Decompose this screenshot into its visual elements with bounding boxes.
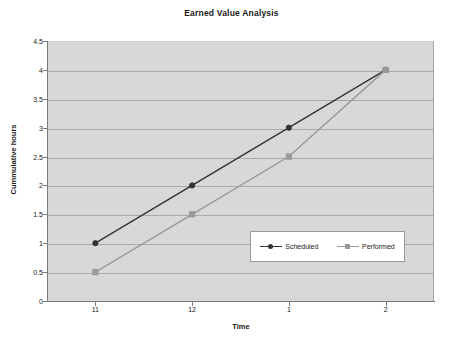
x-axis-tick-label: 11 [75, 306, 115, 313]
gridline [47, 129, 433, 130]
y-axis-tick-label: 4 [3, 66, 43, 73]
x-axis-tick-mark [289, 302, 290, 306]
chart-container: Earned Value Analysis 00.511.522.533.544… [0, 0, 463, 349]
y-axis-tick-mark [43, 272, 47, 273]
gridline [47, 100, 433, 101]
legend-swatch [260, 242, 282, 251]
legend-entry[interactable]: Performed [337, 242, 395, 251]
y-axis-tick-mark [43, 185, 47, 186]
legend-label: Performed [362, 243, 395, 250]
gridline [47, 273, 433, 274]
y-axis-tick-label: 0.5 [3, 269, 43, 276]
legend-label: Scheduled [285, 243, 318, 250]
y-axis-tick-label: 0 [3, 298, 43, 305]
gridline [47, 158, 433, 159]
y-axis-tick-label: 4.5 [3, 38, 43, 45]
gridline [47, 71, 433, 72]
y-axis-tick-labels: 00.511.522.533.544.5 [0, 41, 43, 301]
plot-area [47, 41, 434, 301]
legend-marker-square-icon [345, 244, 350, 249]
y-axis-tick-mark [43, 243, 47, 244]
x-axis-tick-label: 2 [366, 306, 406, 313]
y-axis-title: Cummulative hours [9, 100, 18, 220]
y-axis-tick-mark [43, 99, 47, 100]
y-axis-tick-label: 1 [3, 240, 43, 247]
y-axis-tick-mark [43, 157, 47, 158]
x-axis-title: Time [47, 322, 435, 331]
x-axis-tick-label: 12 [172, 306, 212, 313]
x-axis-tick-mark [386, 302, 387, 306]
y-axis-tick-mark [43, 70, 47, 71]
y-axis-tick-mark [43, 301, 47, 302]
gridline [47, 215, 433, 216]
y-axis-tick-mark [43, 214, 47, 215]
gridline [47, 186, 433, 187]
legend-swatch [337, 242, 359, 251]
x-axis-tick-label: 1 [269, 306, 309, 313]
y-axis-line [47, 41, 48, 302]
y-axis-tick-mark [43, 128, 47, 129]
legend-marker-diamond-icon [268, 244, 273, 249]
chart-title: Earned Value Analysis [0, 8, 463, 18]
chart-legend: ScheduledPerformed [250, 231, 405, 262]
x-axis-tick-mark [95, 302, 96, 306]
y-axis-tick-mark [43, 41, 47, 42]
x-axis-line [47, 301, 435, 302]
legend-entry[interactable]: Scheduled [260, 242, 318, 251]
x-axis-tick-mark [192, 302, 193, 306]
